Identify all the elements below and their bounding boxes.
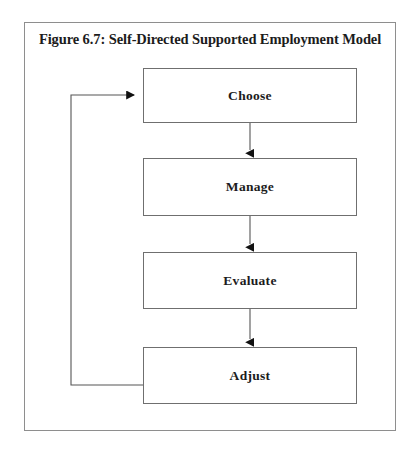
flow-node-choose-label: Choose <box>228 88 272 104</box>
flow-node-adjust-label: Adjust <box>230 368 271 384</box>
flow-node-evaluate[interactable]: Evaluate <box>143 252 357 309</box>
figure-container: Figure 6.7: Self-Directed Supported Empl… <box>0 0 419 451</box>
flow-node-choose[interactable]: Choose <box>143 68 357 123</box>
flow-node-adjust[interactable]: Adjust <box>143 347 357 404</box>
flow-node-manage-label: Manage <box>226 179 274 195</box>
figure-title: Figure 6.7: Self-Directed Supported Empl… <box>24 31 396 48</box>
flow-node-manage[interactable]: Manage <box>143 158 357 216</box>
flow-node-evaluate-label: Evaluate <box>223 273 276 289</box>
